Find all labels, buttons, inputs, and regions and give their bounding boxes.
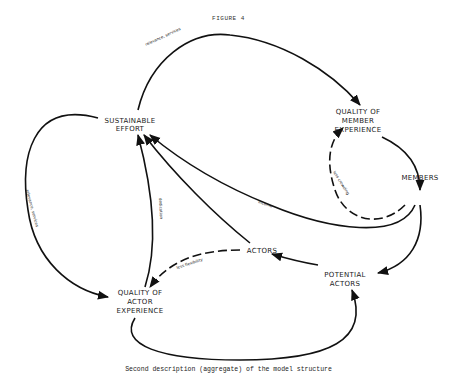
edge-members-to-member-quality-dashed <box>330 128 405 219</box>
node-quality-member-experience: QUALITY OF MEMBER EXPERIENCE <box>335 108 382 134</box>
svg-text:POTENTIAL: POTENTIAL <box>324 271 365 279</box>
edge-member-quality-to-members <box>382 137 420 190</box>
svg-text:QUALITY OF: QUALITY OF <box>336 108 381 116</box>
node-sustainable-effort: SUSTAINABLE EFFORT <box>104 117 155 133</box>
svg-text:EXPERIENCE: EXPERIENCE <box>117 307 164 315</box>
edge-actors-to-actor-quality-dashed <box>150 250 240 287</box>
label-dedication: dedication <box>158 198 164 220</box>
node-potential-actors: POTENTIAL ACTORS <box>324 271 365 288</box>
svg-text:ACTORS: ACTORS <box>330 280 361 288</box>
svg-text:ACTOR: ACTOR <box>127 298 153 306</box>
svg-text:ACTORS: ACTORS <box>247 247 278 255</box>
figure-caption: Second description (aggregate) of the mo… <box>0 366 457 373</box>
edge-actor-quality-to-effort <box>138 135 153 287</box>
svg-text:QUALITY OF: QUALITY OF <box>118 289 163 297</box>
node-members: MEMBERS <box>401 174 438 182</box>
svg-text:MEMBERS: MEMBERS <box>401 174 438 182</box>
svg-text:MEMBER: MEMBER <box>342 117 374 125</box>
model-structure-diagram: relevance, services relevance, services … <box>0 0 457 379</box>
edge-members-to-potential-actors <box>378 205 421 273</box>
label-top-relevance: relevance, services <box>144 26 181 47</box>
edge-effort-to-member-quality <box>138 34 360 110</box>
node-actors: ACTORS <box>247 247 278 255</box>
edge-actor-quality-to-potential-loop <box>131 290 356 360</box>
svg-text:SUSTAINABLE: SUSTAINABLE <box>104 117 155 125</box>
svg-text:EFFORT: EFFORT <box>116 125 145 133</box>
svg-text:EXPERIENCE: EXPERIENCE <box>335 126 382 134</box>
node-quality-actor-experience: QUALITY OF ACTOR EXPERIENCE <box>117 289 164 315</box>
label-income: income <box>258 199 274 208</box>
edge-members-to-effort-income <box>150 135 415 228</box>
label-less-flexibility: less flexibility <box>176 257 204 270</box>
edge-potential-to-actors <box>272 254 318 265</box>
edge-effort-to-actor-quality-loop <box>26 115 108 297</box>
